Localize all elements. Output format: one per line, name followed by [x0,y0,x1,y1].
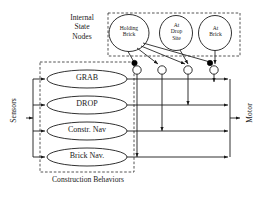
behavior-output-lines [127,79,228,157]
sensors-label: Sensors [10,98,22,123]
internal-state-nodes-label: Internal State Nodes [58,13,106,41]
internal-state-line-1: Internal [58,13,106,22]
at-drop-site-line-3: Site [160,35,193,41]
behavior-label-brick-nav: Brick Nav. [47,152,127,161]
behavior-label-grab: GRAB [47,74,127,83]
state-node-label-holding-brick: Holding Brick [109,25,149,38]
behavior-label-constr-nav: Constr. Nav [47,126,127,135]
suppressor-node-2 [158,66,166,74]
holding-brick-line-2: Brick [109,31,149,37]
link-drop-to-s3 [180,50,188,64]
inhibition-marker-4 [207,60,212,65]
internal-state-line-3: Nodes [58,32,106,41]
sensor-bus [26,79,45,157]
internal-state-line-2: State [58,22,106,31]
suppressor-node-4 [210,66,218,74]
diagram-canvas: Internal State Nodes Holding Brick At Dr… [0,0,266,197]
state-node-label-at-brick: At Brick [199,25,232,38]
behavior-label-drop: DROP [47,100,127,109]
state-node-label-at-drop-site: At Drop Site [160,22,193,41]
construction-behaviors-label: Construction Behaviors [33,176,143,185]
motor-bus [230,79,240,157]
at-brick-line-2: Brick [199,31,232,37]
suppressor-node-1 [133,66,141,74]
suppressor-drop-lines [137,74,214,157]
inhibition-marker-1 [132,60,137,65]
motor-label: Motor [246,103,258,123]
suppressor-node-3 [184,66,192,74]
